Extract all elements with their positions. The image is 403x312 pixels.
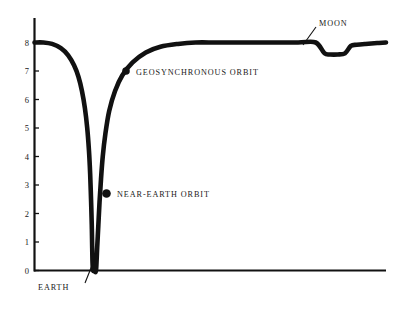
near-earth-orbit-label: NEAR-EARTH ORBIT (117, 190, 210, 199)
y-tick-label-6: 6 (25, 95, 29, 105)
gravity-well-chart: 8 7 6 5 4 3 2 1 0 EARTH MOON NEAR-EARTH … (0, 0, 403, 312)
y-tick-label-5: 5 (25, 123, 29, 133)
y-tick-label-0: 0 (25, 266, 29, 276)
earth-label: EARTH (38, 283, 69, 292)
chart-canvas: 8 7 6 5 4 3 2 1 0 EARTH MOON NEAR-EARTH … (0, 0, 403, 312)
geosynchronous-orbit-label: GEOSYNCHRONOUS ORBIT (136, 68, 259, 77)
y-tick-label-3: 3 (25, 180, 29, 190)
geosynchronous-orbit-marker[interactable] (122, 67, 130, 75)
y-tick-label-7: 7 (25, 66, 29, 76)
moon-label: MOON (319, 19, 348, 28)
near-earth-orbit-marker[interactable] (102, 189, 111, 198)
y-tick-label-1: 1 (25, 237, 29, 247)
y-tick-label-2: 2 (25, 209, 29, 219)
y-tick-label-8: 8 (25, 38, 29, 48)
